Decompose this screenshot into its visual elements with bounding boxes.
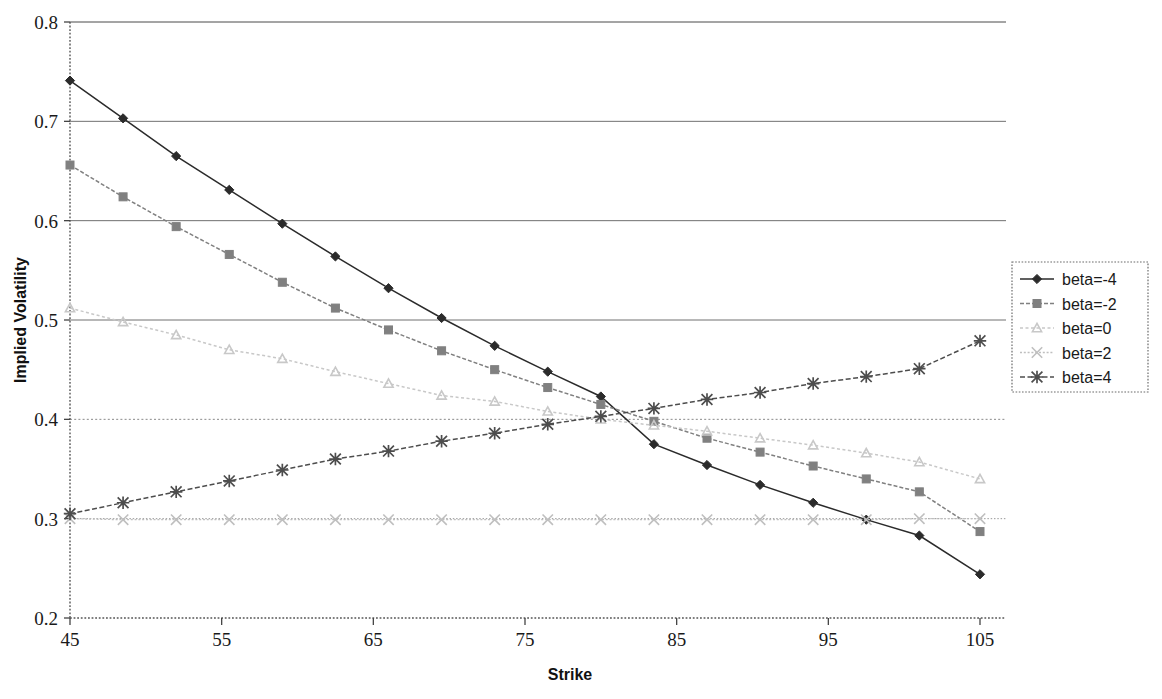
data-point-marker (278, 278, 286, 286)
data-point-marker (648, 402, 660, 414)
legend-item-beta=-4[interactable]: beta=-4 (1020, 271, 1117, 288)
data-point-marker (172, 152, 181, 161)
legend-label-beta=-2: beta=-2 (1062, 296, 1117, 313)
data-point-marker (596, 514, 606, 524)
data-point-marker (117, 497, 129, 509)
data-point-marker (808, 514, 818, 524)
x-tick-label-105: 105 (966, 629, 995, 650)
data-point-marker (331, 252, 340, 261)
legend-item-beta=4[interactable]: beta=4 (1020, 369, 1111, 386)
y-tick-label-0.4: 0.4 (34, 409, 58, 430)
data-point-marker (915, 488, 923, 496)
data-point-marker (383, 514, 393, 524)
data-point-marker (915, 531, 924, 540)
data-point-marker (755, 480, 764, 489)
data-point-marker (975, 570, 984, 579)
data-point-marker (1032, 274, 1041, 283)
y-tick-label-0.3: 0.3 (34, 509, 58, 530)
tick-labels-group: 0.20.30.40.50.60.70.8455565758595105 (34, 12, 994, 650)
data-point-marker (224, 514, 234, 524)
data-point-marker (701, 393, 713, 405)
data-point-marker (435, 435, 447, 447)
data-point-marker (543, 367, 552, 376)
legend-label-beta=2: beta=2 (1062, 345, 1111, 362)
series-line-beta=-4 (70, 81, 980, 575)
legend-item-beta=0[interactable]: beta=0 (1020, 320, 1111, 337)
data-point-marker (384, 284, 393, 293)
data-point-marker (172, 223, 180, 231)
data-point-marker (544, 384, 552, 392)
data-point-marker (438, 347, 446, 355)
data-point-marker (597, 400, 605, 408)
data-point-marker (437, 313, 446, 322)
data-point-marker (488, 427, 500, 439)
legend-item-beta=2[interactable]: beta=2 (1020, 345, 1111, 362)
data-point-marker (329, 453, 341, 465)
chart-page: 0.20.30.40.50.60.70.8455565758595105 Str… (0, 0, 1162, 699)
data-point-marker (436, 514, 446, 524)
legend-label-beta=0: beta=0 (1062, 320, 1111, 337)
data-point-marker (807, 377, 819, 389)
data-point-marker (754, 386, 766, 398)
data-point-marker (756, 448, 764, 456)
data-point-marker (225, 185, 234, 194)
data-point-marker (489, 514, 499, 524)
series-line-beta=-2 (70, 165, 980, 532)
data-point-marker (276, 464, 288, 476)
legend-label-beta=-4: beta=-4 (1062, 271, 1117, 288)
series-group (64, 76, 986, 579)
data-point-marker (65, 76, 74, 85)
x-tick-label-65: 65 (364, 629, 383, 650)
data-point-marker (171, 514, 181, 524)
data-point-marker (913, 362, 925, 374)
data-point-marker (543, 514, 553, 524)
data-point-marker (702, 460, 711, 469)
series-line-beta=0 (70, 308, 980, 479)
y-tick-label-0.5: 0.5 (34, 310, 58, 331)
y-tick-label-0.7: 0.7 (34, 111, 58, 132)
implied-volatility-chart: 0.20.30.40.50.60.70.8455565758595105 Str… (0, 0, 1162, 699)
legend-item-beta=-2[interactable]: beta=-2 (1020, 296, 1117, 313)
x-tick-label-95: 95 (819, 629, 838, 650)
x-tick-label-45: 45 (61, 629, 80, 650)
data-point-marker (330, 514, 340, 524)
data-point-marker (225, 250, 233, 258)
data-point-marker (595, 410, 607, 422)
x-tick-label-55: 55 (212, 629, 231, 650)
data-point-marker (66, 161, 74, 169)
data-point-marker (277, 514, 287, 524)
data-point-marker (974, 335, 986, 347)
y-axis-title: Implied Volatility (12, 257, 29, 383)
data-point-marker (976, 528, 984, 536)
x-axis-title: Strike (548, 666, 593, 683)
data-point-marker (1033, 300, 1041, 308)
x-tick-label-85: 85 (667, 629, 686, 650)
data-point-marker (64, 507, 76, 519)
data-point-marker (1031, 371, 1043, 383)
data-point-marker (382, 445, 394, 457)
series-beta=-2 (66, 161, 984, 536)
data-point-marker (755, 514, 765, 524)
series-beta=-4 (65, 76, 984, 579)
data-point-marker (649, 514, 659, 524)
data-point-marker (862, 475, 870, 483)
data-point-marker (542, 418, 554, 430)
data-point-marker (809, 498, 818, 507)
data-point-marker (331, 304, 339, 312)
axes-group (64, 22, 1006, 625)
data-point-marker (170, 486, 182, 498)
y-tick-label-0.6: 0.6 (34, 211, 58, 232)
data-point-marker (809, 462, 817, 470)
data-point-marker (860, 370, 872, 382)
data-point-marker (491, 366, 499, 374)
y-tick-label-0.2: 0.2 (34, 608, 58, 629)
data-point-marker (702, 514, 712, 524)
series-beta=4 (64, 335, 986, 520)
y-tick-label-0.8: 0.8 (34, 12, 58, 33)
data-point-marker (119, 193, 127, 201)
series-line-beta=4 (70, 341, 980, 514)
series-beta=0 (65, 303, 984, 482)
axis-titles-group: StrikeImplied Volatility (12, 257, 592, 683)
gridlines-group (70, 22, 1006, 519)
legend-group[interactable]: beta=-4beta=-2beta=0beta=2beta=4 (1012, 262, 1148, 392)
